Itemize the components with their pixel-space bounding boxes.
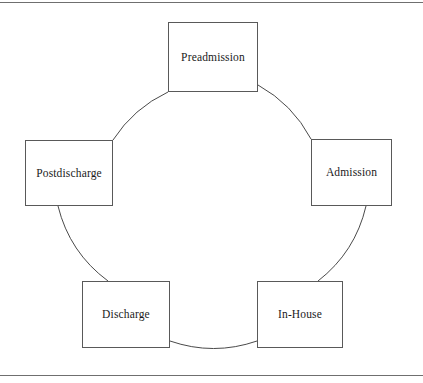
cycle-diagram-figure: Preadmission Admission In-House Discharg… [0, 0, 423, 383]
arc-postdischarge-discharge [58, 206, 108, 281]
node-in-house-label: In-House [278, 308, 322, 321]
node-admission-label: Admission [326, 166, 377, 179]
arc-discharge-inhouse [170, 341, 257, 348]
node-postdischarge: Postdischarge [25, 140, 113, 206]
arc-admission-preadmission [258, 85, 311, 139]
node-admission: Admission [311, 139, 392, 206]
arc-inhouse-admission [318, 206, 366, 281]
arc-preadmission-postdischarge [113, 92, 168, 140]
node-discharge-label: Discharge [102, 308, 150, 321]
node-preadmission: Preadmission [168, 22, 258, 92]
node-in-house: In-House [257, 281, 343, 348]
node-postdischarge-label: Postdischarge [36, 167, 102, 180]
node-preadmission-label: Preadmission [181, 51, 245, 64]
node-discharge: Discharge [82, 281, 170, 348]
